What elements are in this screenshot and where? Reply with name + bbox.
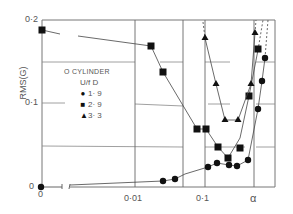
legend-title: O CYLINDER (64, 66, 110, 77)
legend-entry-2-9: ■2· 9 (80, 99, 110, 110)
y-tick-0: 0 (29, 181, 34, 191)
x-tick-alpha: α (250, 192, 256, 204)
legend: O CYLINDER U/f D ●1· 9 ■2· 9 ▲3· 3 (64, 66, 110, 121)
square-marker-icon: ■ (80, 99, 86, 110)
series-3-3-markers (202, 29, 259, 122)
y-axis-label: RMS(G) (18, 67, 28, 100)
series-3-3 (203, 20, 256, 120)
legend-label: 3· 3 (88, 111, 102, 120)
circle-marker-icon: ● (80, 88, 86, 99)
x-tick-0-01: 0·01 (124, 193, 142, 203)
x-tick-0: 0 (38, 189, 43, 199)
chart-canvas (0, 0, 293, 214)
legend-label: 1· 9 (88, 89, 102, 98)
legend-entry-1-9: ●1· 9 (80, 88, 110, 99)
y-tick-0-2: 0·2 (25, 14, 38, 24)
legend-label: 2· 9 (88, 100, 102, 109)
legend-entry-3-3: ▲3· 3 (80, 110, 110, 121)
x-tick-0-1: 0·1 (196, 193, 209, 203)
triangle-marker-icon: ▲ (80, 110, 86, 121)
axis-break (42, 184, 70, 189)
legend-header: U/f D (80, 77, 110, 88)
